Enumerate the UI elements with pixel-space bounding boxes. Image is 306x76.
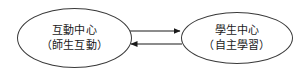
diagram-canvas: 互動中心 （師生互動） 學生中心 （自主學習） [0,0,306,76]
node-student-center-secondary-label: （自主學習） [203,38,270,53]
node-interaction-center-primary-label: 互動中心 [52,24,97,38]
node-interaction-center-secondary-label: （師生互動） [41,38,108,53]
node-student-center-primary-label: 學生中心 [215,24,260,38]
node-interaction-center[interactable]: 互動中心 （師生互動） [17,8,132,68]
node-student-center[interactable]: 學生中心 （自主學習） [181,12,293,64]
